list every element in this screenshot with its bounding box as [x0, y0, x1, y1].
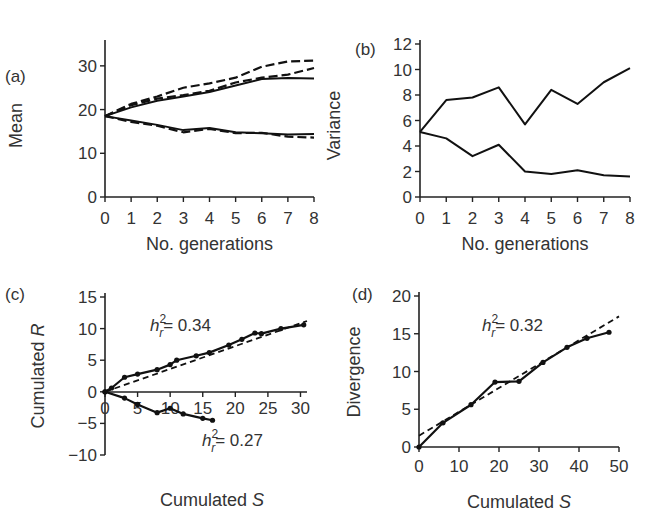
- data-point: [168, 362, 173, 367]
- data-point: [516, 379, 521, 384]
- data-point: [584, 336, 589, 341]
- data-point: [200, 416, 205, 421]
- panel-label: (c): [5, 285, 25, 304]
- data-point: [109, 385, 114, 390]
- panel-c: (c)−10−5051015051015202530: [5, 285, 310, 465]
- x-axis-label: Cumulated S: [467, 492, 571, 512]
- x-tick-label: 0: [100, 399, 109, 418]
- data-point: [155, 367, 160, 372]
- y-tick-label: 10: [392, 363, 411, 382]
- panel-label: (a): [5, 67, 26, 86]
- x-tick-label: 2: [468, 209, 477, 228]
- x-tick-label: 5: [547, 209, 556, 228]
- data-point: [239, 337, 244, 342]
- data-point: [468, 402, 473, 407]
- panel-b: (b)024681012012345678No. generationsVari…: [324, 35, 635, 254]
- series-line-upper: [420, 68, 630, 132]
- panel-label: (d): [352, 285, 373, 304]
- data-point: [181, 411, 186, 416]
- data-point: [440, 420, 445, 425]
- data-point: [492, 379, 497, 384]
- x-tick-label: 30: [291, 399, 310, 418]
- annotation-h2-up: h2r= 0.34: [150, 312, 211, 340]
- x-tick-label: 6: [257, 209, 266, 228]
- data-point: [207, 350, 212, 355]
- data-point: [564, 345, 569, 350]
- annotation-h2-d: h2r= 0.32: [482, 312, 543, 340]
- y-tick-label: 0: [403, 188, 412, 207]
- y-tick-label: 15: [392, 325, 411, 344]
- data-point: [135, 372, 140, 377]
- y-tick-label: 2: [403, 163, 412, 182]
- y-tick-label: −5: [78, 414, 97, 433]
- data-point: [102, 389, 107, 394]
- x-tick-label: 2: [153, 209, 162, 228]
- y-tick-label: −10: [68, 446, 97, 465]
- x-axis-label: No. generations: [461, 234, 588, 254]
- y-axis-label: Cumulated R: [28, 323, 48, 428]
- panel-d: (d)0510152001020304050: [352, 285, 628, 476]
- data-point: [194, 353, 199, 358]
- data-point: [226, 342, 231, 347]
- y-tick-label: 15: [78, 288, 97, 307]
- x-tick-label: 7: [283, 209, 292, 228]
- x-tick-label: 30: [530, 457, 549, 476]
- y-tick-label: 10: [393, 61, 412, 80]
- x-tick-label: 20: [490, 457, 509, 476]
- panel-a: (a)0102030012345678No. generationsMean: [5, 40, 319, 254]
- x-tick-label: 0: [415, 209, 424, 228]
- y-axis-label: Mean: [6, 103, 26, 148]
- y-tick-label: 0: [88, 383, 97, 402]
- data-point: [210, 418, 215, 423]
- y-tick-label: 10: [78, 144, 97, 163]
- y-axis-label: Variance: [324, 91, 344, 161]
- data-point: [168, 406, 173, 411]
- y-tick-label: 10: [78, 320, 97, 339]
- x-tick-label: 15: [193, 399, 212, 418]
- y-tick-label: 6: [403, 112, 412, 131]
- y-tick-label: 20: [392, 287, 411, 306]
- series-line-down-solid: [105, 116, 314, 134]
- x-tick-label: 10: [450, 457, 469, 476]
- y-tick-label: 5: [402, 400, 411, 419]
- x-tick-label: 50: [610, 457, 629, 476]
- data-point: [155, 410, 160, 415]
- x-tick-label: 3: [494, 209, 503, 228]
- y-tick-label: 4: [403, 137, 412, 156]
- x-tick-label: 1: [442, 209, 451, 228]
- x-tick-label: 8: [625, 209, 634, 228]
- y-tick-label: 0: [402, 438, 411, 457]
- data-point: [301, 322, 306, 327]
- data-point: [174, 358, 179, 363]
- series-line-up-dash1: [105, 61, 314, 117]
- x-tick-label: 7: [599, 209, 608, 228]
- x-tick-label: 40: [570, 457, 589, 476]
- x-tick-label: 4: [205, 209, 214, 228]
- x-tick-label: 8: [309, 209, 318, 228]
- data-point: [606, 330, 611, 335]
- figure: (a)0102030012345678No. generationsMean(b…: [0, 0, 659, 532]
- data-point: [416, 444, 421, 449]
- x-tick-label: 6: [573, 209, 582, 228]
- x-tick-label: 0: [100, 209, 109, 228]
- x-tick-label: 4: [520, 209, 529, 228]
- y-tick-label: 5: [88, 351, 97, 370]
- data-point: [540, 360, 545, 365]
- series-line-lower: [420, 132, 630, 177]
- x-tick-label: 20: [226, 399, 245, 418]
- x-tick-label: 0: [414, 457, 423, 476]
- x-axis-label: No. generations: [146, 234, 273, 254]
- x-tick-label: 25: [258, 399, 277, 418]
- y-axis-label: Divergence: [344, 326, 364, 417]
- data-point: [122, 396, 127, 401]
- x-tick-label: 3: [179, 209, 188, 228]
- y-tick-label: 30: [78, 57, 97, 76]
- y-tick-label: 0: [88, 188, 97, 207]
- y-tick-label: 12: [393, 35, 412, 54]
- y-tick-label: 8: [403, 86, 412, 105]
- data-point: [259, 331, 264, 336]
- data-point: [278, 326, 283, 331]
- x-axis-label: Cumulated S: [160, 490, 264, 510]
- y-tick-label: 20: [78, 101, 97, 120]
- data-point: [252, 330, 257, 335]
